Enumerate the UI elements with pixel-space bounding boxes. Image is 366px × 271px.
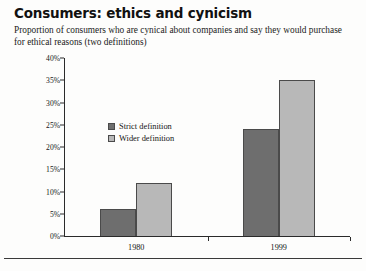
y-tick-label: 30% (46, 98, 60, 107)
bar-group (208, 58, 351, 236)
chart-legend: Strict definition Wider definition (108, 122, 174, 143)
x-tick-mark (208, 237, 209, 241)
y-axis-labels: 0%5%10%15%20%25%30%35%40% (30, 58, 60, 236)
y-tick-label: 0% (50, 232, 60, 241)
y-tick-label: 40% (46, 54, 60, 63)
x-tick-label: 1980 (128, 243, 144, 252)
y-tick-mark (60, 213, 64, 214)
y-tick-label: 25% (46, 120, 60, 129)
y-tick-label: 15% (46, 165, 60, 174)
legend-label: Wider definition (119, 134, 174, 143)
y-tick-label: 5% (50, 209, 60, 218)
y-tick-mark (60, 147, 64, 148)
legend-label: Strict definition (119, 122, 172, 131)
legend-item-strict: Strict definition (108, 122, 174, 131)
y-tick-mark (60, 102, 64, 103)
legend-item-wider: Wider definition (108, 134, 174, 143)
chart-figure: Consumers: ethics and cynicism Proportio… (0, 0, 366, 271)
plot-area (65, 58, 350, 236)
y-tick-label: 10% (46, 187, 60, 196)
y-tick-mark (60, 80, 64, 81)
bar-group (65, 58, 208, 236)
y-tick-label: 20% (46, 143, 60, 152)
chart-subtitle: Proportion of consumers who are cynical … (14, 24, 346, 49)
bottom-divider (4, 258, 362, 259)
y-tick-mark (60, 124, 64, 125)
square-swatch-icon (108, 135, 115, 142)
bar (136, 183, 172, 236)
y-tick-mark (60, 169, 64, 170)
y-tick-mark (60, 236, 64, 237)
x-tick-mark (350, 237, 351, 241)
x-tick-label: 1999 (271, 243, 287, 252)
y-tick-mark (60, 191, 64, 192)
y-tick-mark (60, 58, 64, 59)
bar (243, 129, 279, 236)
y-tick-label: 35% (46, 76, 60, 85)
square-swatch-icon (108, 123, 115, 130)
bar (100, 209, 136, 236)
bar (279, 80, 315, 236)
chart-title: Consumers: ethics and cynicism (14, 6, 354, 22)
plot-container: 0%5%10%15%20%25%30%35%40% Strict definit… (0, 52, 366, 252)
figure-header: Consumers: ethics and cynicism Proportio… (14, 6, 354, 48)
